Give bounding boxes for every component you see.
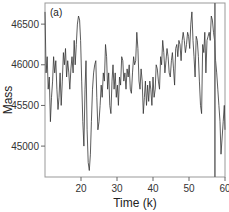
x-tick-label: 30 xyxy=(111,183,123,194)
y-tick-label: 46500 xyxy=(11,19,39,30)
plot-frame xyxy=(45,3,225,177)
x-tick-label: 20 xyxy=(75,183,87,194)
y-tick-label: 46000 xyxy=(11,59,39,70)
y-axis-title: Mass xyxy=(1,86,15,115)
x-tick-label: 40 xyxy=(147,183,159,194)
y-tick-label: 45500 xyxy=(11,100,39,111)
y-axis-ticks: 45000455004600046500 xyxy=(11,19,45,152)
x-tick-label: 60 xyxy=(219,183,229,194)
x-axis-ticks: 2030405060 xyxy=(75,177,229,194)
x-axis-title: Time (k) xyxy=(113,196,157,210)
x-tick-label: 50 xyxy=(183,183,195,194)
line-chart: 45000455004600046500 2030405060 (a) Time… xyxy=(0,0,229,212)
panel-label: (a) xyxy=(50,7,62,18)
y-tick-label: 45000 xyxy=(11,141,39,152)
